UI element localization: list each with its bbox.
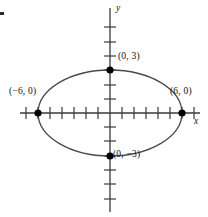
coordinate-plane — [0, 0, 208, 217]
y-axis-label: y — [116, 3, 120, 13]
vertex-label-right: (6, 0) — [170, 86, 192, 96]
x-axis-label: x — [194, 116, 198, 126]
ellipse-figure: (0, 3) (0, −3) (−6, 0) (6, 0) y x — [0, 0, 208, 217]
vertex-label-bottom: (0, −3) — [113, 149, 140, 159]
vertex-label-top: (0, 3) — [118, 51, 140, 61]
vertex-point-right — [178, 109, 185, 116]
vertex-point-left — [34, 109, 41, 116]
vertex-label-left: (−6, 0) — [9, 86, 36, 96]
vertex-point-top — [106, 66, 113, 73]
